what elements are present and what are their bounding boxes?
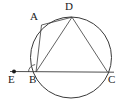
vertex-label-B: B <box>29 74 36 85</box>
vertex-label-A: A <box>30 11 38 22</box>
chord-DC <box>72 17 108 72</box>
geometry-figure: A D B C E <box>0 0 124 103</box>
line-EBC <box>10 72 114 73</box>
circumscribed-circle <box>31 17 112 98</box>
geometry-canvas <box>0 0 124 103</box>
vertex-label-E: E <box>8 74 15 85</box>
vertex-label-C: C <box>108 74 115 85</box>
vertex-label-D: D <box>65 1 73 12</box>
